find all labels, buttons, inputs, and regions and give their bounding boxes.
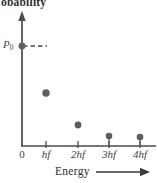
- x-axis-ticks: [46, 141, 140, 148]
- point-stems: [109, 138, 140, 146]
- x-tick-label-0: 0: [14, 149, 30, 160]
- x-tick-label-2hf: 2hf: [65, 149, 91, 160]
- p0-label: P0: [3, 39, 13, 50]
- data-point: [19, 43, 26, 50]
- x-tick-label-hf: hf: [36, 149, 56, 160]
- data-point: [137, 134, 144, 141]
- right-arrow-icon: [96, 168, 150, 177]
- p0-subscript: 0: [10, 43, 14, 52]
- x-axis-title: Energy: [55, 166, 90, 178]
- data-points: [19, 43, 144, 141]
- y-axis-label: obability: [1, 0, 46, 9]
- data-point: [42, 89, 49, 96]
- p0-symbol: P: [3, 38, 10, 50]
- data-point: [75, 122, 82, 129]
- x-tick-label-4hf: 4hf: [127, 149, 153, 160]
- x-tick-label-3hf: 3hf: [96, 149, 122, 160]
- probability-energy-chart: obability P0 0 hf 2hf 3hf 4hf Energy: [0, 0, 157, 183]
- data-point: [106, 133, 113, 140]
- y-axis: [18, 11, 25, 146]
